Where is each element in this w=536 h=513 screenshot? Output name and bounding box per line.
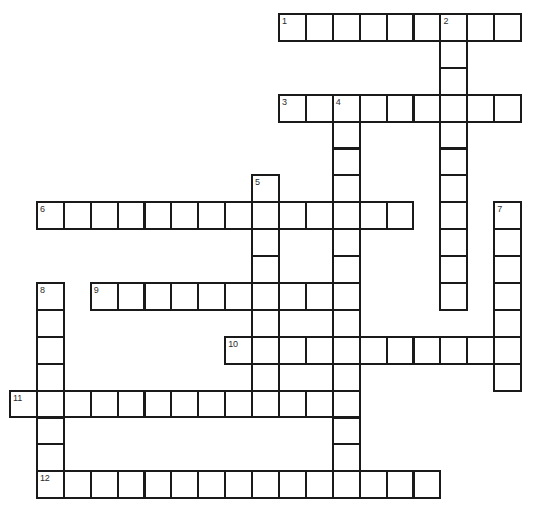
crossword-cell[interactable] [278, 470, 307, 499]
crossword-cell[interactable] [413, 13, 442, 42]
crossword-cell[interactable] [224, 390, 253, 419]
crossword-cell[interactable] [493, 282, 522, 311]
crossword-cell[interactable] [332, 201, 361, 230]
crossword-cell[interactable] [224, 336, 253, 365]
crossword-cell[interactable] [439, 336, 468, 365]
crossword-cell[interactable] [251, 255, 280, 284]
crossword-cell[interactable] [305, 94, 334, 123]
crossword-cell[interactable] [493, 13, 522, 42]
crossword-cell[interactable] [144, 470, 173, 499]
crossword-cell[interactable] [359, 201, 388, 230]
crossword-cell[interactable] [439, 228, 468, 257]
crossword-cell[interactable] [90, 201, 119, 230]
crossword-cell[interactable] [413, 336, 442, 365]
crossword-cell[interactable] [359, 470, 388, 499]
crossword-cell[interactable] [251, 309, 280, 338]
crossword-cell[interactable] [36, 443, 65, 472]
crossword-cell[interactable] [332, 417, 361, 446]
crossword-cell[interactable] [493, 255, 522, 284]
crossword-cell[interactable] [493, 201, 522, 230]
crossword-cell[interactable] [224, 470, 253, 499]
crossword-cell[interactable] [332, 282, 361, 311]
crossword-cell[interactable] [305, 390, 334, 419]
crossword-cell[interactable] [251, 363, 280, 392]
crossword-cell[interactable] [332, 390, 361, 419]
crossword-cell[interactable] [305, 13, 334, 42]
crossword-cell[interactable] [251, 470, 280, 499]
crossword-cell[interactable] [305, 201, 334, 230]
crossword-cell[interactable] [413, 470, 442, 499]
crossword-cell[interactable] [36, 470, 65, 499]
crossword-cell[interactable] [251, 390, 280, 419]
crossword-cell[interactable] [251, 336, 280, 365]
crossword-cell[interactable] [117, 282, 146, 311]
crossword-cell[interactable] [251, 228, 280, 257]
crossword-cell[interactable] [144, 201, 173, 230]
crossword-cell[interactable] [63, 201, 92, 230]
crossword-cell[interactable] [332, 443, 361, 472]
crossword-cell[interactable] [439, 121, 468, 150]
crossword-cell[interactable] [144, 390, 173, 419]
crossword-cell[interactable] [359, 336, 388, 365]
crossword-cell[interactable] [63, 390, 92, 419]
crossword-cell[interactable] [224, 282, 253, 311]
crossword-cell[interactable] [224, 201, 253, 230]
crossword-cell[interactable] [36, 363, 65, 392]
crossword-cell[interactable] [278, 13, 307, 42]
crossword-cell[interactable] [197, 201, 226, 230]
crossword-cell[interactable] [439, 40, 468, 69]
crossword-cell[interactable] [493, 363, 522, 392]
crossword-cell[interactable] [439, 174, 468, 203]
crossword-cell[interactable] [493, 336, 522, 365]
crossword-cell[interactable] [90, 282, 119, 311]
crossword-cell[interactable] [117, 470, 146, 499]
crossword-cell[interactable] [493, 228, 522, 257]
crossword-cell[interactable] [332, 148, 361, 177]
crossword-cell[interactable] [36, 309, 65, 338]
crossword-cell[interactable] [386, 201, 415, 230]
crossword-cell[interactable] [332, 336, 361, 365]
crossword-cell[interactable] [386, 336, 415, 365]
crossword-cell[interactable] [386, 470, 415, 499]
crossword-cell[interactable] [332, 94, 361, 123]
crossword-cell[interactable] [170, 390, 199, 419]
crossword-cell[interactable] [278, 94, 307, 123]
crossword-cell[interactable] [197, 470, 226, 499]
crossword-cell[interactable] [36, 282, 65, 311]
crossword-cell[interactable] [251, 174, 280, 203]
crossword-cell[interactable] [439, 67, 468, 96]
crossword-cell[interactable] [332, 470, 361, 499]
crossword-cell[interactable] [439, 282, 468, 311]
crossword-cell[interactable] [332, 174, 361, 203]
crossword-cell[interactable] [305, 282, 334, 311]
crossword-cell[interactable] [197, 390, 226, 419]
crossword-cell[interactable] [466, 336, 495, 365]
crossword-cell[interactable] [305, 470, 334, 499]
crossword-cell[interactable] [305, 336, 334, 365]
crossword-cell[interactable] [63, 470, 92, 499]
crossword-cell[interactable] [117, 201, 146, 230]
crossword-cell[interactable] [466, 13, 495, 42]
crossword-cell[interactable] [251, 201, 280, 230]
crossword-cell[interactable] [36, 201, 65, 230]
crossword-cell[interactable] [170, 470, 199, 499]
crossword-cell[interactable] [36, 336, 65, 365]
crossword-cell[interactable] [332, 309, 361, 338]
crossword-cell[interactable] [413, 94, 442, 123]
crossword-cell[interactable] [439, 94, 468, 123]
crossword-cell[interactable] [36, 417, 65, 446]
crossword-cell[interactable] [332, 228, 361, 257]
crossword-cell[interactable] [278, 201, 307, 230]
crossword-cell[interactable] [278, 336, 307, 365]
crossword-cell[interactable] [359, 94, 388, 123]
crossword-cell[interactable] [332, 363, 361, 392]
crossword-cell[interactable] [251, 282, 280, 311]
crossword-cell[interactable] [439, 255, 468, 284]
crossword-cell[interactable] [386, 13, 415, 42]
crossword-cell[interactable] [439, 148, 468, 177]
crossword-cell[interactable] [9, 390, 38, 419]
crossword-cell[interactable] [332, 255, 361, 284]
crossword-cell[interactable] [386, 94, 415, 123]
crossword-cell[interactable] [466, 94, 495, 123]
crossword-cell[interactable] [359, 13, 388, 42]
